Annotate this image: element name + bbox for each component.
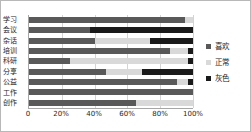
bar-row xyxy=(29,46,193,56)
legend-label: 喜欢 xyxy=(215,43,229,51)
bar-segment[interactable] xyxy=(90,27,193,33)
category-label: 公益 xyxy=(3,78,27,88)
legend-swatch-icon xyxy=(206,44,211,49)
bar-row xyxy=(29,36,193,46)
bar-row xyxy=(29,25,193,35)
bar-segment[interactable] xyxy=(150,38,193,44)
category-label: 会议 xyxy=(3,25,27,35)
bar-segment[interactable] xyxy=(29,17,185,23)
bar-segment[interactable] xyxy=(177,79,188,85)
category-label: 分享 xyxy=(3,67,27,77)
bar-row xyxy=(29,56,193,66)
bar-track xyxy=(29,100,193,106)
bar-segment[interactable] xyxy=(170,48,188,54)
legend-swatch-icon xyxy=(206,76,211,81)
bar-segment[interactable] xyxy=(29,79,177,85)
bar-segment[interactable] xyxy=(185,17,193,23)
legend-label: 灰色 xyxy=(215,75,229,83)
bar-track xyxy=(29,27,193,33)
bar-segment[interactable] xyxy=(29,27,90,33)
bar-row xyxy=(29,87,193,97)
chart-legend: 喜欢正常灰色 xyxy=(206,42,250,90)
bar-track xyxy=(29,69,193,75)
bar-segment[interactable] xyxy=(70,58,188,64)
bar-segment[interactable] xyxy=(95,38,151,44)
bar-segment[interactable] xyxy=(29,58,70,64)
bar-track xyxy=(29,79,193,85)
bar-track xyxy=(29,58,193,64)
plot-wrapper: 学习会议杂话培训科研分享公益工作创作 020%40%60%80%100% xyxy=(1,1,204,132)
bar-segment[interactable] xyxy=(29,100,136,106)
x-axis-tick-label: 60% xyxy=(119,110,135,118)
bar-row xyxy=(29,77,193,87)
bar-segment[interactable] xyxy=(188,58,193,64)
bar-segment[interactable] xyxy=(29,38,95,44)
stacked-bar-chart: 学习会议杂话培训科研分享公益工作创作 020%40%60%80%100% 喜欢正… xyxy=(0,0,251,132)
legend-swatch-icon xyxy=(206,60,211,65)
category-axis: 学习会议杂话培训科研分享公益工作创作 xyxy=(3,15,27,109)
bar-row xyxy=(29,67,193,77)
bar-track xyxy=(29,89,193,95)
category-label: 培训 xyxy=(3,46,27,56)
bar-segment[interactable] xyxy=(188,48,193,54)
legend-item[interactable]: 正常 xyxy=(206,58,250,67)
bar-segment[interactable] xyxy=(136,100,193,106)
bar-segment[interactable] xyxy=(188,79,193,85)
x-axis-tick-label: 100% xyxy=(183,110,203,118)
plot-area xyxy=(28,15,193,109)
bar-segment[interactable] xyxy=(106,69,142,75)
bar-row xyxy=(29,15,193,25)
bar-segment[interactable] xyxy=(29,89,193,95)
gridline xyxy=(193,15,194,108)
bar-track xyxy=(29,17,193,23)
x-axis-tick-label: 0 xyxy=(26,110,30,118)
x-axis-tick-label: 20% xyxy=(53,110,69,118)
bar-segment[interactable] xyxy=(142,69,193,75)
category-label: 创作 xyxy=(3,99,27,109)
bar-segment[interactable] xyxy=(29,48,170,54)
legend-item[interactable]: 灰色 xyxy=(206,74,250,83)
bar-row xyxy=(29,98,193,108)
category-label: 杂话 xyxy=(3,36,27,46)
legend-label: 正常 xyxy=(215,59,229,67)
legend-item[interactable]: 喜欢 xyxy=(206,42,250,51)
bar-track xyxy=(29,38,193,44)
bar-segment[interactable] xyxy=(29,69,106,75)
x-axis: 020%40%60%80%100% xyxy=(28,110,193,124)
bar-series-container xyxy=(29,15,193,108)
category-label: 学习 xyxy=(3,15,27,25)
bar-track xyxy=(29,48,193,54)
category-label: 工作 xyxy=(3,88,27,98)
x-axis-tick-label: 80% xyxy=(152,110,168,118)
x-axis-tick-label: 40% xyxy=(86,110,102,118)
category-label: 科研 xyxy=(3,57,27,67)
